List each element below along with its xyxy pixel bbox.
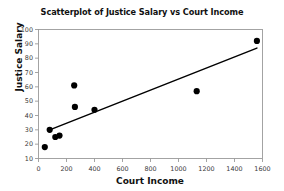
y-axis-ticks: 102030405060708090100	[21, 26, 39, 163]
x-tick-label: 1200	[198, 165, 214, 173]
x-tick-label: 200	[60, 165, 72, 173]
x-tick-label: 1600	[254, 165, 270, 173]
data-points	[42, 38, 260, 150]
data-point	[56, 132, 62, 138]
x-tick-label: 1000	[170, 165, 186, 173]
data-point	[91, 107, 97, 113]
y-tick-label: 80	[25, 54, 33, 62]
y-tick-label: 70	[25, 69, 33, 77]
x-tick-label: 400	[88, 165, 100, 173]
x-tick-label: 0	[36, 165, 40, 173]
scatterplot-figure: Scatterplot of Justice Salary vs Court I…	[0, 0, 284, 191]
y-tick-label: 100	[21, 26, 33, 34]
data-point	[42, 144, 48, 150]
plot-canvas: 02004006008001000120014001600 1020304050…	[0, 0, 284, 191]
data-point	[194, 88, 200, 94]
plot-frame	[39, 30, 263, 159]
x-tick-label: 600	[116, 165, 128, 173]
y-tick-label: 50	[25, 97, 33, 105]
x-axis-ticks: 02004006008001000120014001600	[36, 159, 270, 173]
data-point	[47, 127, 53, 133]
y-tick-label: 10	[25, 155, 33, 163]
x-tick-label: 1400	[226, 165, 242, 173]
data-point	[72, 104, 78, 110]
x-tick-label: 800	[144, 165, 156, 173]
y-tick-label: 30	[25, 126, 33, 134]
data-point	[254, 38, 260, 44]
y-tick-label: 40	[25, 112, 33, 120]
data-point	[71, 82, 77, 88]
trendline	[50, 48, 257, 130]
y-tick-label: 60	[25, 83, 33, 91]
y-tick-label: 90	[25, 40, 33, 48]
y-tick-label: 20	[25, 140, 33, 148]
